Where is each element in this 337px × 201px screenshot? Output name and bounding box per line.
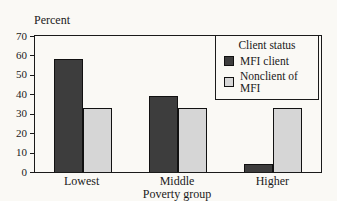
y-tick-label: 70 [1, 31, 27, 42]
y-tick-mark [30, 133, 35, 134]
bar-middle-mfi-client [149, 96, 178, 172]
y-tick-label: 30 [1, 108, 27, 119]
bar-middle-nonclient [178, 108, 207, 172]
bar-lowest-mfi-client [54, 59, 83, 172]
y-tick-mark [30, 36, 35, 37]
legend-swatch-icon [224, 56, 234, 66]
bar-higher-nonclient [273, 108, 302, 172]
legend-title: Client status [216, 39, 318, 52]
y-axis-title: Percent [34, 14, 70, 26]
bar-lowest-nonclient [83, 108, 112, 172]
y-tick-mark [30, 114, 35, 115]
x-category-label-higher: Higher [256, 175, 289, 187]
y-tick-mark [30, 172, 35, 173]
legend-swatch-icon [224, 77, 234, 87]
y-tick-mark [30, 153, 35, 154]
plot-area: 010203040506070 Client status MFI client… [34, 35, 322, 173]
legend: Client status MFI clientNonclient of MFI [215, 35, 319, 100]
legend-item: MFI client [216, 55, 318, 67]
y-tick-mark [30, 94, 35, 95]
legend-item-label: Nonclient of MFI [240, 70, 318, 94]
bar-chart-figure: Percent 010203040506070 Client status MF… [0, 0, 337, 201]
x-axis-title: Poverty group [34, 188, 320, 200]
x-category-label-middle: Middle [160, 175, 195, 187]
legend-item-label: MFI client [240, 55, 289, 67]
y-tick-label: 40 [1, 89, 27, 100]
y-tick-label: 60 [1, 50, 27, 61]
x-category-label-lowest: Lowest [64, 175, 99, 187]
y-tick-mark [30, 75, 35, 76]
y-tick-label: 10 [1, 147, 27, 158]
legend-items: MFI clientNonclient of MFI [216, 55, 318, 94]
y-tick-label: 50 [1, 69, 27, 80]
bar-higher-mfi-client [244, 164, 273, 172]
legend-item: Nonclient of MFI [216, 70, 318, 94]
y-tick-mark [30, 55, 35, 56]
y-tick-label: 20 [1, 128, 27, 139]
y-tick-label: 0 [1, 167, 27, 178]
